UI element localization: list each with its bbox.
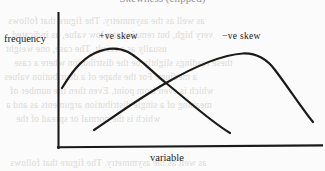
positive-skew-label: +ve skew	[99, 31, 138, 41]
x-axis-label: variable	[150, 152, 184, 163]
skewness-figure: as well as the asymmetry. The figure tha…	[0, 0, 325, 171]
positive-skew-curve	[62, 49, 230, 133]
skewness-plot	[0, 0, 325, 171]
negative-skew-curve	[94, 53, 313, 130]
y-axis-label: frequency	[4, 33, 46, 44]
negative-skew-label: −ve skew	[222, 31, 261, 41]
x-axis-line	[58, 145, 322, 147]
